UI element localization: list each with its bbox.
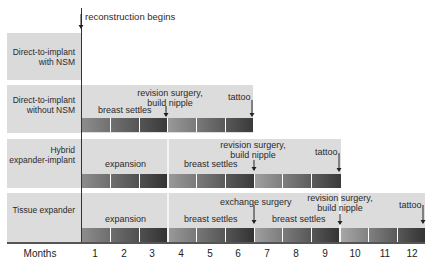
down-arrow-icon [336, 214, 344, 226]
month-divider [139, 228, 140, 242]
event-breast-settles: breast settles [184, 159, 238, 169]
month-divider [254, 174, 255, 188]
row-label-tissue-expander: Tissue expander [7, 193, 81, 242]
row-label-line2: with NSM [39, 57, 75, 67]
down-arrow-icon [162, 106, 170, 118]
event-expansion: expansion [105, 214, 146, 224]
phase-bar [82, 118, 167, 132]
row-label-line1: Direct-to-implant [13, 95, 75, 105]
month-divider [368, 228, 369, 242]
month-divider [254, 228, 255, 242]
row-label-line1: Tissue expander [12, 205, 75, 215]
month-divider [196, 118, 197, 132]
row-label-direct-with-nsm: Direct-to-implant with NSM [7, 33, 81, 80]
annotation-reconstruction-begins: reconstruction begins [85, 12, 175, 22]
month-divider [225, 174, 226, 188]
month-divider [167, 118, 168, 132]
down-arrow-icon [250, 160, 258, 172]
event-text-line2: build nipple [213, 150, 293, 160]
month-divider [311, 174, 312, 188]
month-divider [139, 174, 140, 188]
month-tick: 10 [341, 248, 369, 259]
event-text-line1: revision surgery, [300, 193, 380, 203]
x-axis-line [7, 242, 425, 244]
month-divider [196, 228, 197, 242]
phase-bar [254, 174, 341, 188]
event-text-line1: revision surgery, [130, 88, 210, 98]
event-text-line2: build nipple [300, 203, 380, 213]
month-divider [397, 228, 398, 242]
month-divider [282, 174, 283, 188]
event-revision-surgery: revision surgery, build nipple [213, 140, 293, 160]
month-tick: 7 [253, 248, 281, 259]
phase-bar [82, 174, 167, 188]
event-expansion: expansion [105, 159, 146, 169]
row-label-line1: Hybrid [50, 145, 75, 155]
down-arrow-icon [248, 100, 256, 118]
month-tick: 11 [371, 248, 399, 259]
down-arrow-icon [77, 14, 85, 30]
row-label-line2: without NSM [27, 105, 75, 115]
event-breast-settles: breast settles [272, 214, 326, 224]
month-tick: 9 [311, 248, 339, 259]
timeline-start-line [81, 8, 82, 243]
month-divider [311, 228, 312, 242]
month-tick: 4 [167, 248, 195, 259]
event-revision-surgery: revision surgery, build nipple [130, 88, 210, 108]
row-label-direct-without-nsm: Direct-to-implant without NSM [7, 85, 81, 133]
month-divider [225, 118, 226, 132]
phase-bar [168, 228, 254, 242]
month-tick: 1 [81, 248, 109, 259]
phase-bar [82, 228, 167, 242]
month-divider [110, 228, 111, 242]
month-tick: 6 [224, 248, 252, 259]
row-label-line2: expander-implant [9, 155, 75, 165]
month-divider [139, 118, 140, 132]
month-tick: 3 [138, 248, 166, 259]
down-arrow-icon [419, 205, 427, 225]
event-breast-settles: breast settles [184, 214, 238, 224]
month-divider [225, 228, 226, 242]
month-divider [282, 228, 283, 242]
axis-label: Months [20, 248, 60, 259]
phase-divider [167, 193, 169, 242]
month-tick: 2 [110, 248, 138, 259]
month-divider [110, 174, 111, 188]
event-revision-surgery: revision surgery, build nipple [300, 193, 380, 213]
phase-bar [168, 174, 254, 188]
month-divider [196, 174, 197, 188]
down-arrow-icon [335, 153, 343, 173]
month-divider [110, 118, 111, 132]
row-label-line1: Direct-to-implant [13, 47, 75, 57]
down-arrow-icon [250, 205, 258, 225]
phase-bar [167, 118, 253, 132]
month-tick: 12 [398, 248, 426, 259]
phase-bar [340, 228, 425, 242]
row-label-hybrid: Hybrid expander-implant [7, 139, 81, 188]
phase-bar [254, 228, 340, 242]
month-tick: 5 [196, 248, 224, 259]
phase-divider [167, 139, 169, 188]
month-tick: 8 [282, 248, 310, 259]
event-text-line1: revision surgery, [213, 140, 293, 150]
event-text-line2: build nipple [130, 98, 210, 108]
